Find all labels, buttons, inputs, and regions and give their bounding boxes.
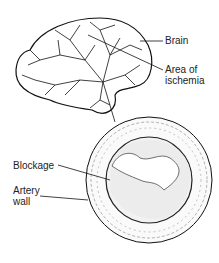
artery-wall-pointer xyxy=(40,196,88,200)
label-ischemia-line2: ischemia xyxy=(165,75,204,86)
ischemia-pointer xyxy=(88,35,163,70)
label-artery-line2: wall xyxy=(13,196,40,207)
label-ischemia: Area of ischemia xyxy=(165,64,204,86)
label-artery-wall: Artery wall xyxy=(13,185,40,207)
brain-outline xyxy=(16,18,152,113)
label-blockage: Blockage xyxy=(13,160,54,171)
label-ischemia-line1: Area of xyxy=(165,64,204,75)
label-artery-line1: Artery xyxy=(13,185,40,196)
label-brain: Brain xyxy=(165,35,188,46)
brain-vessels xyxy=(22,22,142,108)
